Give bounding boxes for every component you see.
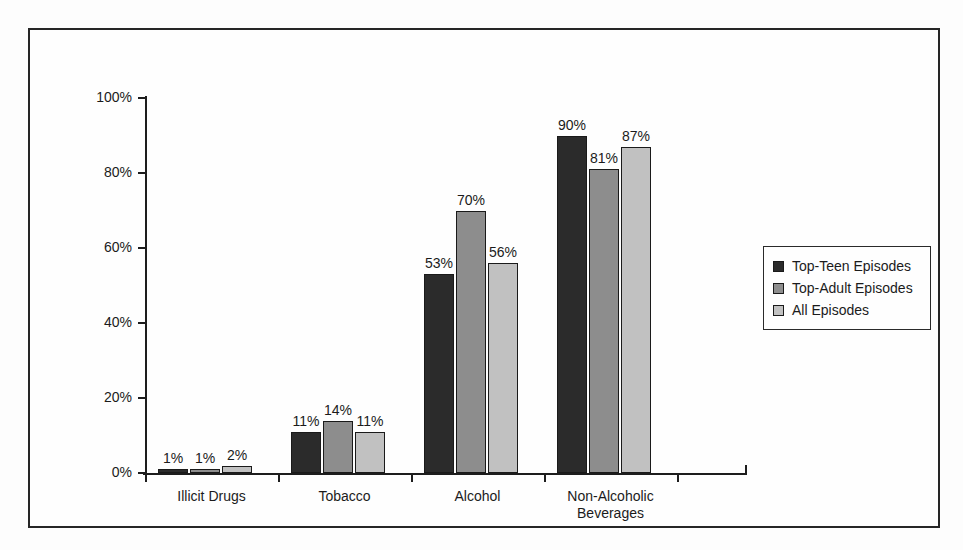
bar	[291, 432, 321, 473]
y-axis-tick	[138, 172, 146, 174]
y-axis-tick-label: 60%	[84, 239, 132, 255]
y-axis-tick-label: 100%	[84, 89, 132, 105]
bar-value-label: 90%	[550, 117, 594, 133]
x-axis-line	[143, 473, 747, 475]
bar	[557, 136, 587, 474]
chart-frame: 0%20%40%60%80%100% 1%1%2%11%14%11%53%70%…	[28, 28, 940, 528]
bar-value-label: 70%	[449, 192, 493, 208]
y-axis-tick-label: 80%	[84, 164, 132, 180]
bar	[621, 147, 651, 473]
x-axis-tick	[278, 474, 280, 482]
bar-value-label: 56%	[481, 244, 525, 260]
chart-legend: Top-Teen EpisodesTop-Adult EpisodesAll E…	[763, 246, 931, 330]
legend-swatch-icon	[773, 261, 784, 272]
bar-value-label: 2%	[215, 447, 259, 463]
y-axis-tick	[138, 322, 146, 324]
bar	[190, 469, 220, 473]
bar	[355, 432, 385, 473]
y-axis-tick	[138, 247, 146, 249]
x-axis-tick	[677, 474, 679, 482]
y-axis-tick	[138, 97, 146, 99]
y-axis-tick-label: 0%	[84, 464, 132, 480]
legend-item: Top-Adult Episodes	[773, 277, 921, 299]
bar	[488, 263, 518, 473]
x-axis-category-label: Non-AlcoholicBeverages	[521, 488, 701, 522]
legend-swatch-icon	[773, 283, 784, 294]
legend-item-label: All Episodes	[792, 302, 869, 318]
x-axis-end-tick	[745, 465, 747, 475]
legend-item-label: Top-Teen Episodes	[792, 258, 911, 274]
legend-swatch-icon	[773, 305, 784, 316]
bar-value-label: 11%	[348, 413, 392, 429]
x-axis-category-label-line: Non-Alcoholic	[521, 488, 701, 505]
legend-item: Top-Teen Episodes	[773, 255, 921, 277]
chart-screenshot: 0%20%40%60%80%100% 1%1%2%11%14%11%53%70%…	[0, 0, 963, 550]
y-axis-tick	[138, 397, 146, 399]
bar	[158, 469, 188, 473]
bar-value-label: 81%	[582, 150, 626, 166]
bar	[222, 466, 252, 474]
y-axis-tick-label: 40%	[84, 314, 132, 330]
bar	[424, 274, 454, 473]
bar-value-label: 87%	[614, 128, 658, 144]
legend-item-label: Top-Adult Episodes	[792, 280, 913, 296]
x-axis-tick	[145, 474, 147, 482]
x-axis-tick	[544, 474, 546, 482]
bar	[589, 169, 619, 473]
legend-item: All Episodes	[773, 299, 921, 321]
x-axis-tick	[411, 474, 413, 482]
y-axis-line	[145, 96, 147, 475]
x-axis-category-label-line: Beverages	[521, 505, 701, 522]
bar-value-label: 53%	[417, 255, 461, 271]
y-axis-tick-label: 20%	[84, 389, 132, 405]
